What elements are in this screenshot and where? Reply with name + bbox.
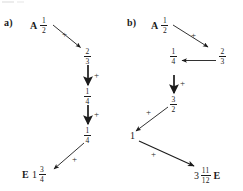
diagram-a-label: a) bbox=[4, 18, 13, 28]
node-b-end: 3 11 12 E bbox=[194, 167, 220, 184]
fraction-a-end: 3 4 bbox=[39, 166, 46, 183]
arrow-a-4 bbox=[54, 143, 84, 169]
node-b-step3: 3 2 bbox=[170, 96, 177, 113]
operator-b-2: + bbox=[180, 79, 185, 88]
operator-a-1: + bbox=[62, 30, 67, 39]
start-tag-a: A bbox=[30, 21, 37, 31]
arrow-b-5 bbox=[139, 141, 194, 166]
operator-b-3: + bbox=[146, 108, 151, 117]
fraction-a-start: 1 2 bbox=[40, 17, 47, 34]
whole-b-step4: 1 bbox=[130, 131, 135, 141]
operator-b-4: + bbox=[151, 150, 156, 159]
operator-a-2: + bbox=[94, 71, 99, 80]
fraction-b-step1: 2 3 bbox=[219, 48, 226, 65]
whole-b-end: 3 bbox=[194, 171, 199, 181]
end-tag-a: E bbox=[22, 170, 29, 180]
start-tag-b: A bbox=[151, 21, 158, 31]
node-b-step1: 2 3 bbox=[219, 48, 226, 65]
fraction-a-step3: 1 4 bbox=[84, 127, 91, 144]
operator-a-4: + bbox=[72, 155, 77, 164]
node-a-step2: 1 4 bbox=[84, 88, 91, 105]
fraction-b-start: 1 2 bbox=[161, 17, 168, 34]
node-b-step4: 1 bbox=[130, 131, 137, 141]
scan-artifact bbox=[2, 1, 14, 3]
fraction-a-step2: 1 4 bbox=[84, 88, 91, 105]
end-tag-b: E bbox=[214, 171, 221, 181]
diagram-b-label: b) bbox=[127, 18, 136, 28]
scanned-page: a) A 1 2 + 2 3 + 1 4 + 1 4 + bbox=[0, 0, 243, 191]
operator-a-3: + bbox=[94, 110, 99, 119]
node-b-step2: 1 4 bbox=[170, 48, 177, 65]
fraction-b-step3: 3 2 bbox=[170, 96, 177, 113]
node-a-start: A 1 2 bbox=[30, 17, 47, 34]
node-a-step1: 2 3 bbox=[84, 48, 91, 65]
operator-b-1: + bbox=[191, 31, 196, 40]
fraction-b-end: 11 12 bbox=[201, 167, 211, 184]
scan-artifact bbox=[17, 1, 24, 3]
arrow-b-4 bbox=[136, 107, 168, 131]
fraction-b-step2: 1 4 bbox=[170, 48, 177, 65]
whole-a-end: 1 bbox=[32, 170, 37, 180]
node-b-start: A 1 2 bbox=[151, 17, 168, 34]
node-a-step3: 1 4 bbox=[84, 127, 91, 144]
fraction-a-step1: 2 3 bbox=[84, 48, 91, 65]
node-a-end: E 1 3 4 bbox=[22, 166, 46, 183]
